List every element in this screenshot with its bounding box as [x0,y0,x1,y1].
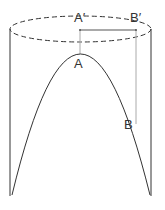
point-b-prime [135,29,137,31]
label-a-prime: A′ [74,10,86,25]
label-b-prime: B′ [130,10,142,25]
cylinder-parabola-diagram: A′ B′ A B [0,0,165,210]
label-a: A [74,56,83,71]
point-a-prime [79,29,81,31]
label-b: B [124,117,133,132]
